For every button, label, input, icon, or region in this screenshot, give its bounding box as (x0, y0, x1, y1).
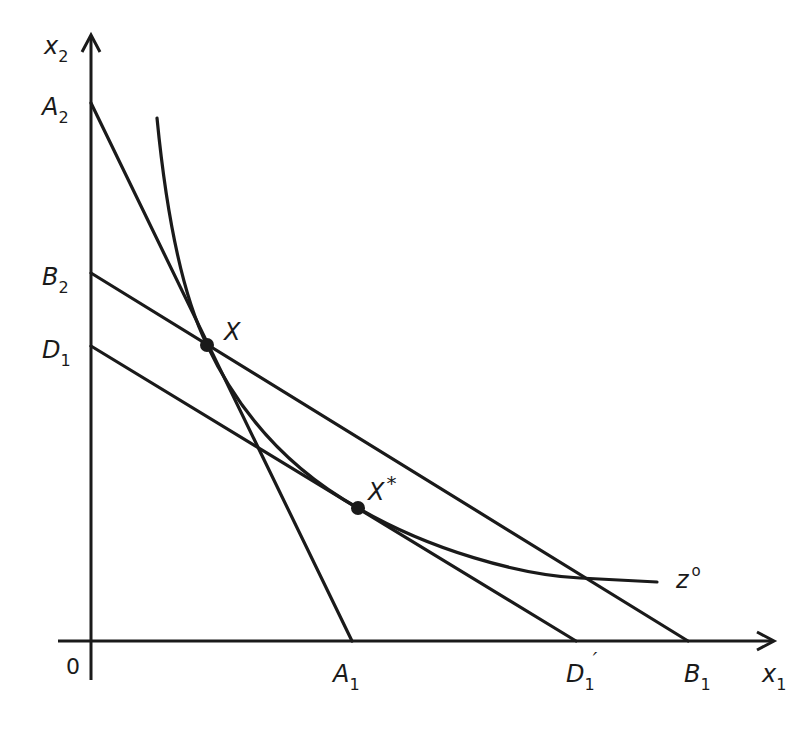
label-x: X (222, 318, 241, 346)
line-b2-b1 (91, 273, 688, 641)
origin-label: 0 (66, 654, 80, 679)
axes (58, 35, 774, 680)
label-b1: B1 (684, 660, 711, 694)
point-x-star (351, 501, 365, 515)
label-x-star: X* (366, 471, 396, 506)
y-axis-label: x2 (43, 32, 68, 66)
label-b2: B2 (42, 263, 69, 297)
label-d1: D1 (42, 336, 71, 370)
label-d1-prime: D1′ (566, 647, 598, 694)
x-axis-label: x1 (761, 660, 786, 694)
indifference-curve-diagram: x2 x1 0 A2 B2 D1 A1 D1′ B1 X X* zo (0, 0, 811, 731)
label-a1: A1 (331, 660, 360, 694)
label-z0: zo (675, 562, 701, 594)
label-a2: A2 (40, 93, 69, 127)
point-x (200, 338, 214, 352)
indifference-curve-z0 (157, 118, 657, 582)
